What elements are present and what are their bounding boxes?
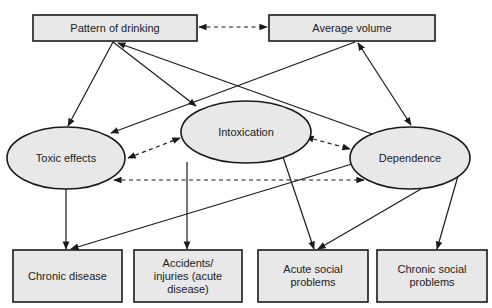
label-toxic-effects: Toxic effects: [7, 127, 125, 189]
label-average-volume: Average volume: [269, 15, 435, 41]
edge-toxic-intoxication: [128, 138, 180, 158]
label-intoxication: Intoxication: [181, 101, 311, 163]
label-chronic-disease: Chronic disease: [13, 250, 122, 302]
label-accidents-injuries: Accidents/ injuries (acute disease): [134, 250, 242, 302]
edge-intoxication-acute-social: [283, 157, 314, 249]
edge-pattern-intoxication: [113, 42, 196, 106]
label-acute-social-problems: Acute social problems: [258, 250, 368, 302]
label-pattern-of-drinking: Pattern of drinking: [33, 15, 197, 41]
label-chronic-social-problems: Chronic social problems: [377, 250, 487, 302]
edge-dependence-acute-social: [318, 189, 421, 249]
label-dependence: Dependence: [350, 127, 470, 189]
edge-average-dependence: [358, 43, 411, 125]
edge-pattern-toxic: [68, 42, 113, 126]
edge-intoxication-dependence: [306, 137, 350, 149]
